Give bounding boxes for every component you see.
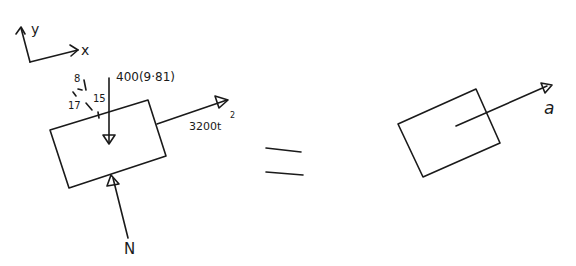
applied-force-label: 3200t — [189, 120, 222, 133]
diagram-canvas: y x 400(9·81) 8 15 17 3200t 2 N — [0, 0, 576, 266]
equals-sign — [266, 148, 303, 175]
x-axis-label: x — [81, 42, 89, 58]
normal-force-line — [113, 178, 128, 238]
normal-force-label: N — [124, 240, 135, 258]
coordinate-axes: y x — [16, 21, 89, 62]
free-body-diagram: 400(9·81) 8 15 17 3200t 2 N — [50, 70, 235, 258]
applied-force-exponent: 2 — [230, 111, 235, 120]
slope-rise-label: 8 — [74, 73, 80, 84]
slope-run-label: 15 — [93, 93, 106, 104]
acceleration-arrowhead-icon — [541, 83, 552, 93]
kinetic-block — [398, 89, 500, 177]
equals-bottom-bar — [266, 172, 303, 175]
fbd-block — [50, 100, 166, 188]
weight-label: 400(9·81) — [116, 70, 175, 84]
kinetic-diagram: a — [398, 83, 554, 177]
y-axis-label: y — [31, 21, 39, 37]
y-axis-arrowhead-icon — [16, 27, 25, 34]
y-axis-line — [21, 28, 30, 62]
equals-top-bar — [266, 148, 301, 152]
slope-hyp-label: 17 — [68, 100, 81, 111]
acceleration-label: a — [544, 98, 554, 118]
slope-triangle: 8 15 17 — [68, 73, 106, 118]
